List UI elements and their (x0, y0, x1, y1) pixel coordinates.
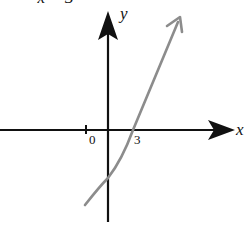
tick-label-3: 3 (134, 133, 141, 146)
tick-label-0: 0 (89, 133, 96, 146)
y-axis-label: y (120, 5, 128, 22)
x-axis-label: x (236, 121, 244, 138)
function-curve (85, 22, 178, 205)
graph-figure: • x = 3 y x 0 3 (0, 0, 247, 235)
graph-svg (0, 0, 247, 235)
